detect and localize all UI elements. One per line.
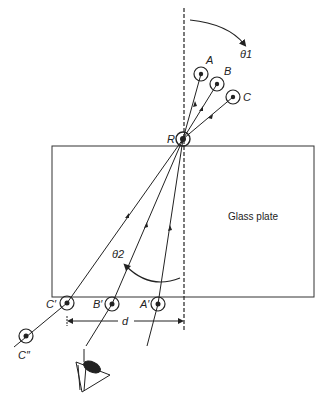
label-C-prime: C′ (46, 298, 57, 310)
marker-A-prime (151, 297, 165, 311)
label-C-double-prime: C″ (18, 349, 31, 361)
eye-icon (76, 349, 110, 392)
ray-A-refracted (158, 139, 183, 304)
label-C: C (243, 91, 251, 103)
marker-A (194, 67, 208, 81)
ray-A (183, 74, 201, 139)
label-B: B (224, 65, 231, 77)
marker-B (210, 77, 224, 91)
label-A: A (205, 54, 213, 66)
ray-B (183, 84, 217, 139)
label-R: R (167, 133, 175, 145)
marker-C-double-prime (19, 329, 33, 343)
glass-plate-label: Glass plate (228, 211, 278, 222)
marker-C-prime (60, 296, 74, 310)
marker-B-prime (105, 297, 119, 311)
theta1-label: θ1 (240, 48, 252, 60)
theta2-label: θ2 (112, 248, 124, 260)
ray-B-refracted (112, 139, 183, 304)
label-A-prime: A′ (139, 298, 150, 310)
distance-label: d (122, 315, 129, 327)
theta2-arc (126, 266, 180, 282)
ray-C-exit (14, 303, 67, 347)
refraction-diagram: Glass plate θ1 A B C R θ2 (0, 0, 323, 401)
label-B-prime: B′ (93, 298, 103, 310)
marker-C (226, 90, 240, 104)
theta1-arc (190, 20, 244, 44)
ray-C-refracted (67, 139, 183, 303)
